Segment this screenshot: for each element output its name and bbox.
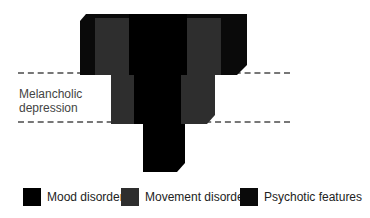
legend-item-movement-disorder: Movement disorder [121,188,248,206]
legend-item-mood-disorder: Mood disorder [23,188,124,206]
pyramid-blocks [0,0,370,218]
movement-disorder-swatch [121,188,139,206]
mood-disorder-swatch [23,188,41,206]
legend-label: Psychotic features [264,190,362,204]
legend-label: Mood disorder [47,190,124,204]
bottom-tier-mood [143,124,185,172]
top-tier-mood [129,14,187,75]
top-tier-movement-left [95,18,129,75]
legend-label: Movement disorder [145,190,248,204]
legend-item-psychotic-features: Psychotic features [240,188,362,206]
psychotic-features-swatch [240,188,258,206]
top-tier-movement-right [187,18,221,75]
middle-tier-mood [134,75,181,124]
